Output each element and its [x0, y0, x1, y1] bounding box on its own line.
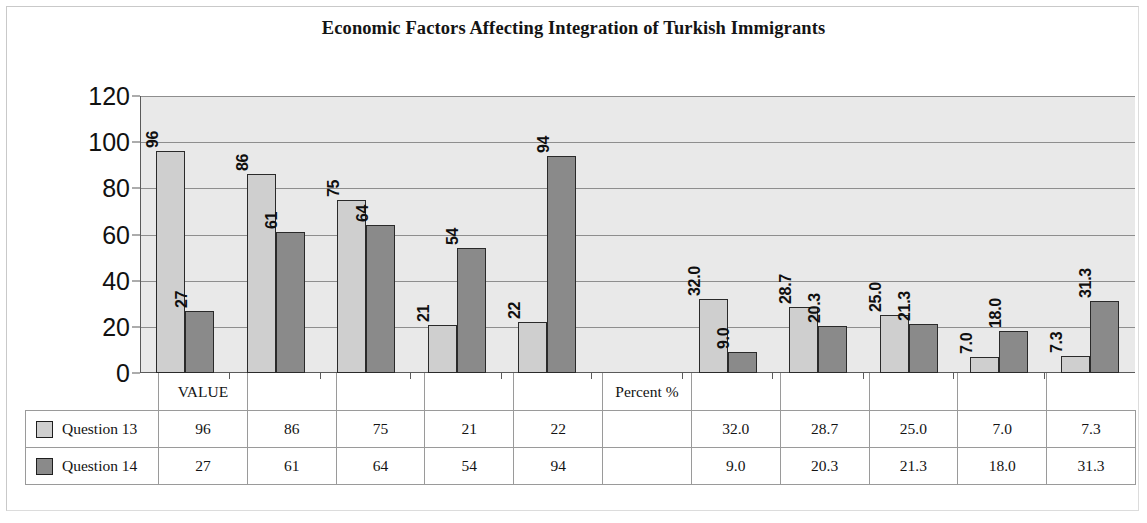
bar[interactable]: 7.3	[1061, 356, 1090, 373]
bar-group: 7.018.0	[954, 96, 1044, 373]
table-cell: 28.7	[780, 411, 869, 448]
bar-pair: 7564	[321, 96, 411, 373]
bar-pair: 28.720.3	[773, 96, 863, 373]
bar[interactable]: 54	[457, 248, 486, 373]
bar[interactable]: 31.3	[1090, 301, 1119, 373]
bar[interactable]: 9.0	[728, 352, 757, 373]
bar-group	[592, 96, 682, 373]
bar-pair: 7.331.3	[1045, 96, 1135, 373]
table-cell: 75	[336, 411, 425, 448]
table-cell: 22	[514, 411, 603, 448]
bar-group: 2154	[411, 96, 501, 373]
bar-value-label: 75	[334, 188, 352, 205]
bar[interactable]: 20.3	[818, 326, 847, 373]
table-column-header	[869, 373, 958, 411]
y-axis-tick-label: 40	[102, 266, 130, 295]
bar-group: 9627	[140, 96, 230, 373]
bar-group: 32.09.0	[683, 96, 773, 373]
table-cell: 9.0	[691, 448, 780, 485]
bar[interactable]: 21.3	[909, 324, 938, 373]
bar[interactable]: 22	[518, 322, 547, 373]
table-cell: 18.0	[958, 448, 1047, 485]
bar-pair: 8661	[230, 96, 320, 373]
bar[interactable]: 64	[366, 225, 395, 373]
bar-pair: 9627	[140, 96, 230, 373]
bar[interactable]: 61	[276, 232, 305, 373]
bar-value-label: 21	[424, 313, 442, 330]
table-column-header: Percent %	[603, 373, 692, 411]
bar-value-label: 32.0	[695, 281, 713, 311]
bar-value-label: 86	[243, 163, 261, 180]
table-cell: 94	[514, 448, 603, 485]
bar-value-label: 7.0	[967, 343, 985, 364]
chart-container: Economic Factors Affecting Integration o…	[0, 0, 1147, 523]
bar-value-label: 54	[453, 237, 471, 254]
table-column-header	[691, 373, 780, 411]
bar-pair: 2294	[502, 96, 592, 373]
bar-value-label: 94	[544, 144, 562, 161]
table-cell: 61	[247, 448, 336, 485]
bar-value-label: 61	[272, 221, 290, 238]
bar-value-label: 27	[182, 299, 200, 316]
y-axis-tick-label: 80	[102, 174, 130, 203]
table-cell: 25.0	[869, 411, 958, 448]
bar[interactable]: 94	[547, 156, 576, 373]
table-cell	[603, 448, 692, 485]
legend-swatch-icon	[36, 421, 53, 438]
bar[interactable]: 21	[428, 325, 457, 373]
table-cell: 21	[425, 411, 514, 448]
bar-pair: 32.09.0	[683, 96, 773, 373]
bar-group: 8661	[230, 96, 320, 373]
bar[interactable]: 7.0	[970, 357, 999, 373]
bar[interactable]: 86	[247, 174, 276, 373]
table-column-header	[780, 373, 869, 411]
bar-pair: 7.018.0	[954, 96, 1044, 373]
legend-entry[interactable]: Question 14	[26, 448, 159, 485]
bar-group: 7564	[321, 96, 411, 373]
bar[interactable]: 75	[337, 200, 366, 373]
legend-label: Question 13	[62, 420, 137, 438]
table-header-corner	[26, 373, 159, 411]
table-cell: 86	[247, 411, 336, 448]
bar-pair	[592, 96, 682, 373]
y-axis-tick-mark	[132, 96, 140, 97]
table-header-row: VALUEPercent %	[26, 373, 1136, 411]
y-axis-tick-label: 60	[102, 220, 130, 249]
table-column-header	[425, 373, 514, 411]
table-cell: 64	[336, 448, 425, 485]
y-axis-tick-label: 100	[88, 128, 130, 157]
y-axis-tick-mark	[132, 234, 140, 235]
bar-value-label: 96	[153, 140, 171, 157]
bar-group: 7.331.3	[1045, 96, 1135, 373]
y-axis-tick-label: 20	[102, 312, 130, 341]
table-column-header	[514, 373, 603, 411]
table-cell: 27	[159, 448, 248, 485]
table-column-header: VALUE	[159, 373, 248, 411]
y-axis-tick-label: 120	[88, 82, 130, 111]
bar-value-label: 9.0	[724, 339, 742, 360]
bar-group: 2294	[502, 96, 592, 373]
table-cell: 54	[425, 448, 514, 485]
bar[interactable]: 27	[185, 311, 214, 373]
table-cell: 7.0	[958, 411, 1047, 448]
bar[interactable]: 96	[156, 151, 185, 373]
y-axis-tick-mark	[132, 142, 140, 143]
bar-group: 28.720.3	[773, 96, 863, 373]
bar[interactable]: 18.0	[999, 331, 1028, 373]
table-column-header	[1047, 373, 1136, 411]
y-axis-tick-mark	[132, 326, 140, 327]
table-column-header	[247, 373, 336, 411]
table-cell: 96	[159, 411, 248, 448]
table-cell: 21.3	[869, 448, 958, 485]
bar-value-label: 20.3	[815, 308, 833, 338]
plot-area: 9627866175642154229432.09.028.720.325.02…	[140, 96, 1135, 373]
bar-value-label: 64	[363, 214, 381, 231]
chart-title: Economic Factors Affecting Integration o…	[0, 18, 1147, 39]
y-axis-tick-mark	[132, 188, 140, 189]
legend-label: Question 14	[62, 457, 137, 475]
bar-value-label: 22	[515, 311, 533, 328]
bar-value-label: 31.3	[1086, 283, 1104, 313]
legend-entry[interactable]: Question 13	[26, 411, 159, 448]
table-cell: 7.3	[1047, 411, 1136, 448]
bar-group: 25.021.3	[864, 96, 954, 373]
